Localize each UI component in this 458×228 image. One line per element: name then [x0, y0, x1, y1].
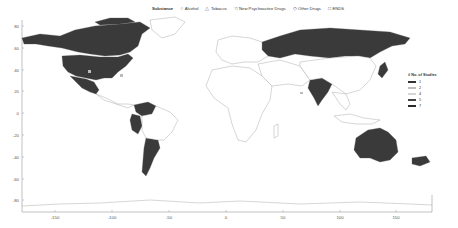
- region-argentina: [142, 138, 160, 176]
- svg-text:150: 150: [392, 215, 400, 220]
- studies-legend: # No. of Studies 1 2 4 5 7: [408, 73, 437, 109]
- region-japan: [378, 62, 388, 78]
- svg-text:-50: -50: [166, 215, 173, 220]
- studies-legend-row: 7: [408, 103, 437, 109]
- swatch-7: [408, 105, 416, 107]
- studies-legend-title: # No. of Studies: [408, 73, 437, 77]
- swatch-1: [408, 81, 416, 83]
- svg-text:60: 60: [14, 46, 19, 51]
- region-new-zealand: [412, 156, 430, 166]
- svg-text:-150: -150: [51, 215, 60, 220]
- svg-text:-80: -80: [13, 198, 20, 203]
- svg-text:40: 40: [14, 68, 19, 73]
- swatch-4: [408, 93, 416, 95]
- swatch-2: [408, 87, 416, 89]
- svg-text:-40: -40: [13, 155, 20, 160]
- x-axis: -150 -100 -50 0 50 100 150: [51, 210, 400, 220]
- y-axis: 80 60 40 20 0 -20 -40 -60 -80: [13, 24, 24, 203]
- svg-text:0: 0: [17, 111, 20, 116]
- region-russia: [262, 28, 410, 58]
- region-australia: [354, 128, 398, 162]
- region-india: [308, 78, 332, 106]
- region-peru: [130, 114, 142, 134]
- svg-text:0: 0: [225, 215, 228, 220]
- svg-text:50: 50: [281, 215, 286, 220]
- svg-text:80: 80: [14, 24, 19, 29]
- region-canada: [22, 22, 150, 56]
- world-map: 80 60 40 20 0 -20 -40 -60 -80 -150 -100 …: [0, 0, 458, 228]
- swatch-5: [408, 99, 416, 101]
- svg-text:20: 20: [14, 89, 19, 94]
- svg-text:-20: -20: [13, 133, 20, 138]
- svg-text:-60: -60: [13, 177, 20, 182]
- svg-text:-100: -100: [108, 215, 117, 220]
- svg-text:100: 100: [336, 215, 344, 220]
